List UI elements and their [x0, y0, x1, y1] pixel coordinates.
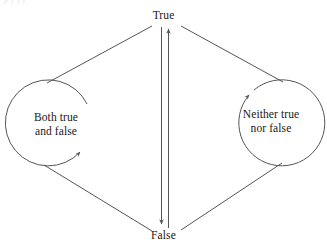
- edge-neither-false: [181, 163, 282, 230]
- node-label-both-line2: and false: [6, 125, 106, 139]
- node-label-neither-line2: nor false: [221, 122, 321, 136]
- edge-true-both: [47, 26, 152, 83]
- node-label-neither-line1: Neither true: [221, 108, 321, 122]
- node-label-neither: Neither true nor false: [221, 108, 321, 135]
- node-label-both-line1: Both true: [6, 111, 106, 125]
- edge-both-false: [44, 165, 152, 231]
- node-label-both: Both true and false: [6, 111, 106, 138]
- node-label-true: True: [0, 9, 327, 21]
- node-label-false: False: [0, 229, 327, 241]
- edge-true-neither: [181, 26, 283, 82]
- diagram-canvas: p y j y True False: [0, 0, 327, 250]
